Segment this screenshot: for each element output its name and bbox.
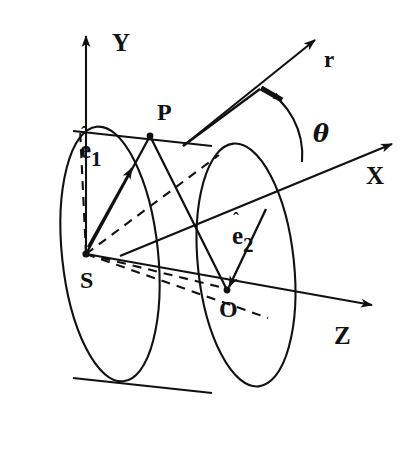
theta-arc-arrowhead	[261, 88, 282, 100]
angle-label-theta: θ	[313, 122, 329, 146]
e2-hat-accent: ˆ	[233, 209, 239, 230]
figure-canvas: Y X Z r θ P S O ˆe1 ˆe2	[0, 0, 411, 453]
e2-subscript: 2	[243, 233, 254, 257]
dash-s-to-o	[86, 254, 228, 289]
vector-label-r: r	[324, 48, 334, 71]
point-label-s: S	[80, 268, 93, 292]
solid-construction-lines	[86, 40, 315, 290]
dot-p	[147, 133, 154, 140]
dot-s	[82, 250, 89, 257]
e1-base: ˆe	[80, 136, 91, 163]
axis-label-x: X	[366, 163, 384, 188]
cylinder-bottom-edge	[73, 378, 212, 393]
vertex-dots	[82, 133, 230, 294]
point-label-p: P	[157, 100, 172, 124]
e1-arrow	[88, 168, 132, 247]
cylinder-right-face	[186, 139, 307, 392]
geometry-drawing	[0, 0, 411, 453]
x-axis-line	[120, 144, 392, 256]
e1-subscript: 1	[91, 147, 102, 171]
point-label-o: O	[219, 297, 238, 321]
axis-label-z: Z	[334, 323, 351, 348]
e2-base: ˆe	[232, 222, 243, 249]
axis-label-y: Y	[112, 30, 130, 55]
cylinder-left-face	[49, 122, 171, 387]
theta-angle-arc	[261, 87, 302, 162]
vector-label-e1: ˆe1	[80, 136, 102, 164]
line-r-ray-lower	[183, 89, 260, 146]
vector-label-e2: ˆe2	[232, 222, 254, 250]
e1-hat-accent: ˆ	[81, 123, 87, 144]
dot-o	[224, 287, 231, 294]
